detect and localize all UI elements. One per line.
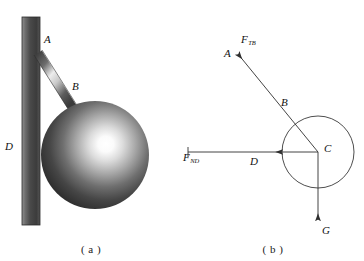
label-a-point-a: A <box>44 34 51 45</box>
label-a-wall-d: D <box>5 141 13 152</box>
label-b-weight-g: G <box>322 225 330 236</box>
wall-shape <box>22 17 40 225</box>
tension-subscript: TB <box>248 39 256 46</box>
rod-shape <box>38 53 74 110</box>
panel-a-illustration: A B D ( a ) <box>0 0 182 261</box>
label-b-center-c: C <box>324 143 331 154</box>
physics-figure: A B D ( a ) <box>0 0 364 261</box>
normal-symbol: F <box>183 151 190 163</box>
label-normal-force: FND <box>183 152 199 163</box>
panel-a-graphics <box>0 0 182 261</box>
tension-force-vector <box>238 54 318 152</box>
label-b-point-b: B <box>281 97 288 108</box>
label-tension-force: FTB <box>241 34 255 45</box>
panel-b-graphics <box>182 0 364 261</box>
tension-symbol: F <box>241 33 248 45</box>
label-a-point-b: B <box>72 81 79 92</box>
label-b-segment-d: D <box>250 156 258 167</box>
panel-b-free-body-diagram: A B C D G FTB FND ( b ) <box>182 0 364 261</box>
normal-subscript: ND <box>190 157 199 164</box>
caption-panel-b: ( b ) <box>182 243 364 255</box>
sphere-shape <box>41 101 149 209</box>
rod-outline-lower <box>42 50 78 107</box>
caption-panel-a: ( a ) <box>0 243 182 255</box>
label-b-point-a: A <box>224 48 231 59</box>
